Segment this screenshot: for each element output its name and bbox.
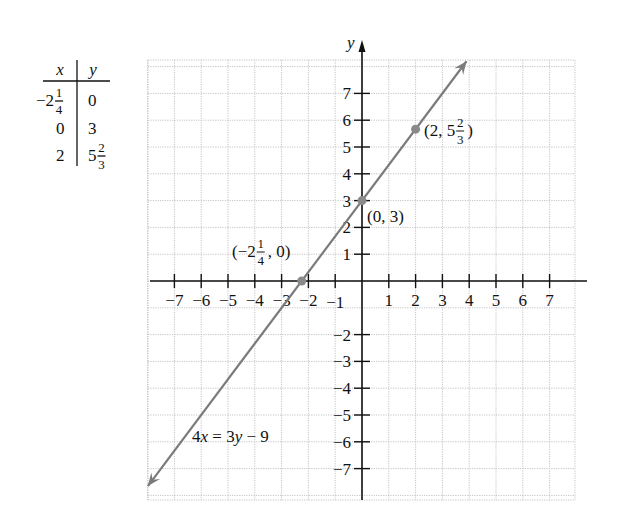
x-tick-label: 4 <box>465 291 474 310</box>
y-tick-label: 3 <box>343 192 352 211</box>
x-tick-label: −6 <box>192 291 210 310</box>
y-axis-label: y <box>345 33 355 52</box>
y-tick-label: 6 <box>343 111 352 130</box>
y-tick-label: 7 <box>343 84 352 103</box>
y-tick-label: −6 <box>333 433 351 452</box>
svg-text:(0, 3): (0, 3) <box>367 207 404 226</box>
data-point <box>358 196 367 205</box>
x-tick-label: 1 <box>385 291 394 310</box>
svg-text:(2, 5: (2, 5 <box>424 121 455 140</box>
x-tick-label: −1 <box>326 293 344 312</box>
svg-text:2: 2 <box>457 115 464 130</box>
svg-text:0: 0 <box>56 119 65 138</box>
svg-text:2: 2 <box>98 140 105 155</box>
y-tick-label: 5 <box>343 138 352 157</box>
point-label-y-intercept: (0, 3) <box>367 207 404 226</box>
data-point <box>297 277 306 286</box>
y-tick-label: −3 <box>333 352 351 371</box>
equation-line <box>148 61 467 486</box>
equation-label: 4x = 3y − 9 <box>192 427 269 446</box>
x-tick-label: −2 <box>299 291 317 310</box>
svg-text:1: 1 <box>56 85 63 100</box>
svg-text:−2: −2 <box>36 91 54 110</box>
svg-text:): ) <box>467 121 473 140</box>
y-tick-label: −7 <box>333 460 352 479</box>
x-tick-label: 5 <box>492 291 501 310</box>
svg-text:(−2: (−2 <box>232 242 256 261</box>
svg-text:, 0): , 0) <box>268 242 291 261</box>
x-tick-label: −5 <box>219 291 237 310</box>
table-header-y: y <box>87 60 97 79</box>
x-tick-label: 6 <box>519 291 528 310</box>
x-tick-label: 2 <box>411 291 420 310</box>
table-cell-x: −214 <box>36 85 63 117</box>
y-tick-label: −5 <box>333 406 351 425</box>
svg-text:3: 3 <box>98 157 105 172</box>
svg-text:5: 5 <box>88 146 97 165</box>
svg-text:1: 1 <box>258 236 265 251</box>
x-tick-label: −7 <box>165 291 184 310</box>
svg-text:3: 3 <box>457 132 464 147</box>
table-cell-y: 523 <box>88 140 106 172</box>
y-tick-label: −4 <box>333 379 352 398</box>
svg-text:3: 3 <box>88 119 97 138</box>
y-tick-label: 4 <box>343 165 352 184</box>
y-tick-label: −2 <box>333 326 351 345</box>
y-axis-arrow-icon <box>359 40 366 52</box>
data-point <box>411 125 420 134</box>
svg-text:2: 2 <box>56 146 65 165</box>
x-tick-label: −4 <box>246 291 265 310</box>
table-cell-y: 3 <box>88 119 97 138</box>
x-tick-label: 3 <box>438 291 447 310</box>
xy-value-table: xy−2140032523 <box>36 60 110 172</box>
svg-text:4: 4 <box>56 102 63 117</box>
coordinate-graph: −7−6−5−4−3−2−112345677654321−2−3−4−5−6−7… <box>0 0 621 521</box>
x-tick-label: 7 <box>545 291 554 310</box>
table-cell-x: 0 <box>56 119 65 138</box>
table-cell-x: 2 <box>56 146 65 165</box>
table-cell-y: 0 <box>88 91 97 110</box>
table-header-x: x <box>55 60 64 79</box>
svg-text:0: 0 <box>88 91 97 110</box>
y-tick-label: 1 <box>343 245 352 264</box>
svg-text:4: 4 <box>258 253 265 268</box>
